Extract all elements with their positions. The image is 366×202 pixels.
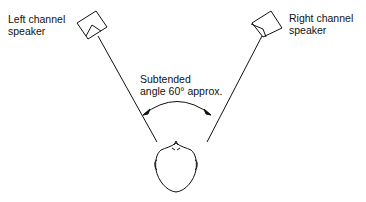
- angle-label: Subtended angle 60° approx.: [140, 73, 222, 97]
- right-speaker-label: Right channel speaker: [289, 12, 353, 36]
- left-speaker-label: Left channel speaker: [8, 13, 65, 37]
- right-speaker-icon: [251, 11, 282, 37]
- angle-arc: [143, 102, 211, 116]
- listener-head-icon: [155, 141, 198, 192]
- arc-arrow-left: [143, 109, 150, 115]
- arc-arrow-right: [204, 109, 211, 115]
- stereo-listening-diagram: Left channel speaker Right channel speak…: [0, 0, 366, 202]
- left-speaker-icon: [77, 11, 107, 39]
